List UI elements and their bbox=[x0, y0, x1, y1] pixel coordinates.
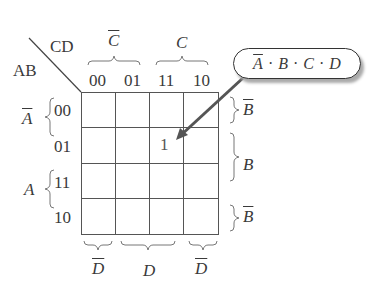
kmap-cell bbox=[184, 93, 218, 128]
left-group-a: A bbox=[24, 181, 34, 198]
right-group-bbar: B bbox=[243, 101, 253, 118]
brace-bottom-d bbox=[121, 241, 175, 250]
minterm-callout: A · B · C · D bbox=[233, 48, 361, 79]
kmap-cell bbox=[184, 199, 218, 234]
bottom-group-d: D bbox=[143, 262, 155, 279]
col-header: 11 bbox=[158, 72, 174, 89]
row-header: 10 bbox=[54, 209, 71, 226]
col-var-label: CD bbox=[50, 38, 74, 55]
kmap-cell bbox=[184, 128, 218, 163]
kmap-cell bbox=[116, 93, 150, 128]
brace-left-abar bbox=[45, 98, 54, 136]
brace-top-c bbox=[156, 56, 208, 65]
callout-term-c: C bbox=[303, 55, 314, 73]
col-header: 01 bbox=[124, 72, 141, 89]
kmap-cell bbox=[116, 164, 150, 199]
callout-separator: · bbox=[319, 55, 324, 73]
right-group-b: B bbox=[243, 156, 253, 173]
callout-term-a: A bbox=[253, 55, 263, 73]
kmap-cell bbox=[82, 93, 116, 128]
col-header: 10 bbox=[193, 72, 210, 89]
kmap-cell bbox=[184, 164, 218, 199]
kmap-cell bbox=[150, 199, 184, 234]
row-header: 00 bbox=[54, 102, 71, 119]
callout-separator: · bbox=[293, 55, 298, 73]
col-header: 00 bbox=[89, 72, 106, 89]
bottom-group-dbar: D bbox=[195, 260, 207, 277]
callout-term-b: B bbox=[278, 55, 288, 73]
kmap-cell bbox=[82, 128, 116, 163]
kmap-cell bbox=[116, 199, 150, 234]
brace-top-cbar bbox=[88, 56, 140, 65]
top-group-cbar: C bbox=[108, 32, 119, 49]
brace-right-b2 bbox=[230, 133, 239, 181]
row-header: 11 bbox=[54, 174, 70, 191]
kmap-cell bbox=[150, 93, 184, 128]
kmap-cell bbox=[82, 199, 116, 234]
callout-separator: · bbox=[268, 55, 273, 73]
bottom-group-dbar: D bbox=[92, 260, 104, 277]
top-group-c: C bbox=[176, 34, 187, 51]
brace-bottom-dbar1 bbox=[84, 241, 112, 250]
brace-right-b3 bbox=[230, 205, 239, 231]
kmap-cell bbox=[150, 164, 184, 199]
brace-left-a bbox=[45, 170, 54, 208]
right-group-bbar: B bbox=[243, 208, 253, 225]
kmap-cell bbox=[116, 128, 150, 163]
row-var-label: AB bbox=[13, 62, 37, 79]
brace-right-b1 bbox=[230, 97, 239, 123]
row-header: 01 bbox=[54, 138, 71, 155]
kmap-cell-minterm: 1 bbox=[150, 128, 184, 163]
kmap-cell bbox=[82, 164, 116, 199]
left-group-abar: A bbox=[22, 110, 32, 127]
brace-bottom-dbar2 bbox=[189, 241, 217, 250]
kmap-grid: 1 bbox=[81, 92, 219, 235]
callout-term-d: D bbox=[329, 55, 341, 73]
